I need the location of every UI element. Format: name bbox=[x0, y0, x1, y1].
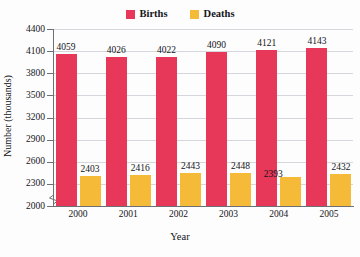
y-axis-title: Number (thousands) bbox=[2, 56, 16, 176]
y-tick-label: 3500 bbox=[26, 91, 45, 101]
bar-value-label: 2432 bbox=[324, 163, 358, 173]
bar-value-label: 2416 bbox=[123, 164, 157, 174]
legend-label-births: Births bbox=[140, 9, 168, 20]
y-tick-label: 2600 bbox=[26, 157, 45, 167]
bar-births-2001 bbox=[106, 57, 127, 206]
square-swatch-icon bbox=[190, 10, 199, 19]
x-axis-title: Year bbox=[0, 231, 360, 242]
y-tick-label: 3800 bbox=[26, 69, 45, 79]
bar-value-label: 4143 bbox=[300, 37, 334, 47]
chart-title-cropped: Births and Deaths bbox=[0, 0, 360, 6]
x-tick-label: 2002 bbox=[153, 210, 203, 220]
bars-layer: 4059240340262416402224434090244841212393… bbox=[53, 29, 354, 206]
chart-title-text: Births and Deaths bbox=[148, 0, 225, 1]
y-tick-label: 2000 bbox=[26, 202, 45, 212]
bar-births-2005 bbox=[306, 48, 327, 206]
bar-value-label: 2403 bbox=[73, 165, 107, 175]
bar-deaths-2004 bbox=[280, 177, 301, 206]
x-tick-label: 2003 bbox=[204, 210, 254, 220]
bar-value-label: 2443 bbox=[173, 162, 207, 172]
bar-deaths-2005 bbox=[330, 174, 351, 206]
legend-item-births: Births bbox=[126, 9, 168, 20]
y-tick-label: 3200 bbox=[26, 113, 45, 123]
bar-chart-figure: Births and Deaths Births Deaths 20002300… bbox=[0, 0, 360, 257]
x-tick-label: 2005 bbox=[304, 210, 354, 220]
bar-value-label: 4022 bbox=[149, 46, 183, 56]
bar-deaths-2000 bbox=[80, 176, 101, 206]
y-tick-mark bbox=[47, 206, 53, 207]
bar-births-2000 bbox=[56, 54, 77, 206]
bar-value-label: 2448 bbox=[224, 162, 258, 172]
bar-births-2002 bbox=[156, 57, 177, 206]
bar-births-2003 bbox=[206, 52, 227, 206]
x-axis-line bbox=[53, 206, 354, 207]
bar-deaths-2003 bbox=[230, 173, 251, 206]
x-tick-label: 2004 bbox=[254, 210, 304, 220]
x-tick-label: 2001 bbox=[103, 210, 153, 220]
bar-value-label: 4121 bbox=[250, 39, 284, 49]
legend-label-deaths: Deaths bbox=[204, 9, 235, 20]
x-tick-label: 2000 bbox=[53, 210, 103, 220]
bar-value-label: 4026 bbox=[99, 46, 133, 56]
y-tick-label: 2300 bbox=[26, 179, 45, 189]
bar-value-label: 4090 bbox=[200, 41, 234, 51]
bar-value-label: 2393 bbox=[256, 170, 290, 180]
bar-deaths-2001 bbox=[130, 175, 151, 206]
y-tick-label: 4100 bbox=[26, 47, 45, 57]
bar-births-2004 bbox=[256, 50, 277, 206]
legend-item-deaths: Deaths bbox=[190, 9, 235, 20]
chart-legend: Births Deaths bbox=[0, 7, 360, 22]
y-tick-label: 2900 bbox=[26, 135, 45, 145]
y-tick-label: 4400 bbox=[26, 25, 45, 35]
bar-deaths-2002 bbox=[180, 173, 201, 206]
bar-value-label: 4059 bbox=[49, 43, 83, 53]
square-swatch-icon bbox=[126, 10, 135, 19]
